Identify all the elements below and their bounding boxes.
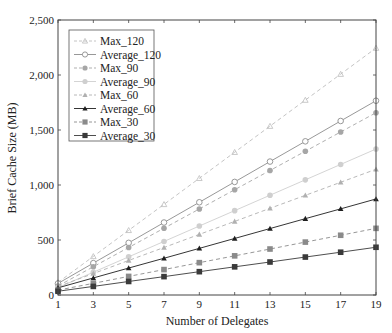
x-axis-title: Number of Delegates [166, 314, 269, 328]
legend-label: Average_120 [100, 49, 161, 62]
legend-label: Average_90 [100, 76, 156, 89]
x-tick-label: 5 [126, 298, 132, 310]
series-max-30 [55, 226, 379, 293]
legend: Max_120Average_120Max_90Average_90Max_60… [69, 30, 161, 143]
series-average-60 [55, 196, 379, 290]
y-tick-label: 1,500 [29, 124, 54, 136]
x-tick-label: 1 [55, 298, 61, 310]
series-average-90 [55, 146, 379, 290]
series-average-30 [55, 244, 379, 294]
x-tick-label: 17 [335, 298, 347, 310]
y-tick-label: 0 [49, 289, 55, 301]
x-tick-label: 19 [371, 298, 383, 310]
y-tick-label: 500 [38, 234, 55, 246]
series-max-60 [55, 166, 379, 288]
legend-label: Average_60 [100, 103, 156, 116]
x-tick-label: 13 [265, 298, 277, 310]
legend-label: Max_60 [100, 89, 139, 101]
y-tick-label: 2,000 [29, 69, 54, 81]
line-chart: 05001,0001,5002,0002,500 135791113151719… [0, 0, 392, 333]
legend-label: Max_120 [100, 35, 144, 47]
y-tick-label: 2,500 [29, 14, 54, 26]
x-tick-label: 3 [91, 298, 97, 310]
legend-label: Average_30 [100, 130, 156, 143]
x-tick-label: 11 [229, 298, 240, 310]
x-tick-label: 9 [197, 298, 203, 310]
x-tick-label: 7 [161, 298, 167, 310]
legend-label: Max_90 [100, 62, 139, 74]
y-tick-label: 1,000 [29, 179, 54, 191]
legend-label: Max_30 [100, 116, 139, 128]
x-tick-label: 15 [300, 298, 312, 310]
y-axis-title: Brief Cache Size (MB) [5, 103, 19, 214]
